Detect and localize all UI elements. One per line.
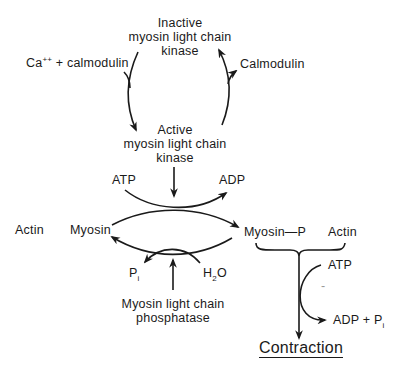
pi-label: Pi xyxy=(129,266,140,280)
h2o-base: H xyxy=(203,266,212,280)
calmodulin-out-branch xyxy=(228,71,236,84)
contraction-label: Contraction xyxy=(259,339,343,358)
ca-charge: ++ xyxy=(42,55,52,64)
complex-brace xyxy=(256,243,345,256)
calmodulin-text: + calmodulin xyxy=(52,56,129,70)
h2o-rest: O xyxy=(217,266,227,280)
pi-sub: i xyxy=(138,274,140,283)
actin-right-label: Actin xyxy=(328,225,357,239)
inactive-kinase-label: Inactive myosin light chain kinase xyxy=(120,16,240,58)
atp-adp-arc xyxy=(125,190,226,207)
dephosphorylation-arrow xyxy=(112,237,232,254)
ca-text: Ca xyxy=(26,56,42,70)
inactive-kinase-line2: myosin light chain xyxy=(120,30,240,44)
h2o-label: H2O xyxy=(203,266,227,280)
active-kinase-label: Active myosin light chain kinase xyxy=(115,123,235,165)
pi-base: P xyxy=(129,266,138,280)
inactive-kinase-line1: Inactive xyxy=(120,16,240,30)
adp-top-label: ADP xyxy=(219,173,245,187)
adp-pi-base: ADP + P xyxy=(333,313,382,327)
phosphorylation-arrow xyxy=(112,210,238,227)
phosphatase-label: Myosin light chain phosphatase xyxy=(113,297,233,325)
phosphatase-line2: phosphatase xyxy=(113,311,233,325)
actin-left-label: Actin xyxy=(15,223,44,237)
adp-pi-sub: i xyxy=(382,321,384,330)
inactive-kinase-line3: kinase xyxy=(120,44,240,58)
atp-right-label: ATP xyxy=(328,258,352,272)
activation-arrow xyxy=(128,52,138,130)
inactivation-arrow xyxy=(219,50,229,125)
atp-top-label: ATP xyxy=(112,173,136,187)
active-kinase-line3: kinase xyxy=(115,151,235,165)
ca-calmodulin-label: Ca++ + calmodulin xyxy=(26,56,129,70)
myosin-p-label: Myosin—P xyxy=(244,225,306,239)
adp-pi-right-label: ADP + Pi xyxy=(333,313,384,327)
myosin-label: Myosin xyxy=(70,223,111,237)
active-kinase-line2: myosin light chain xyxy=(115,137,235,151)
dash-mark: - xyxy=(321,279,325,293)
active-kinase-line1: Active xyxy=(115,123,235,137)
calmodulin-out-label: Calmodulin xyxy=(240,57,305,71)
phosphatase-line1: Myosin light chain xyxy=(113,297,233,311)
